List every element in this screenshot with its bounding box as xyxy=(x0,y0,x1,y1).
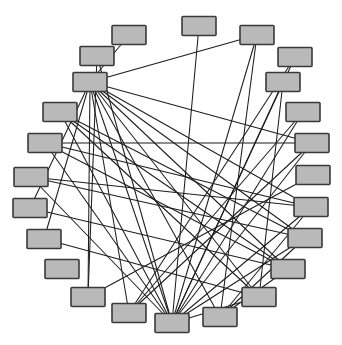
graph-node-box[interactable] xyxy=(296,166,330,185)
graph-node-box[interactable] xyxy=(112,26,146,45)
graph-edge xyxy=(178,122,297,314)
graph-edge xyxy=(97,92,251,288)
graph-node[interactable] xyxy=(71,288,105,307)
graph-node[interactable] xyxy=(295,134,329,153)
nodes-layer xyxy=(13,17,330,333)
graph-edge xyxy=(52,153,166,314)
graph-edge xyxy=(260,92,282,288)
graph-node-box[interactable] xyxy=(13,199,47,218)
graph-node-box[interactable] xyxy=(286,103,320,122)
graph-node[interactable] xyxy=(296,166,330,185)
graph-node[interactable] xyxy=(13,199,47,218)
graph-node-box[interactable] xyxy=(112,304,146,323)
graph-node[interactable] xyxy=(242,288,276,307)
graph-node-box[interactable] xyxy=(294,198,328,217)
graph-node[interactable] xyxy=(73,73,107,92)
figure-caption xyxy=(0,340,342,345)
graph-node-box[interactable] xyxy=(242,288,276,307)
graph-node-box[interactable] xyxy=(203,308,237,327)
graph-node-box[interactable] xyxy=(73,73,107,92)
graph-node[interactable] xyxy=(43,103,77,122)
graph-canvas xyxy=(0,0,342,345)
graph-node-box[interactable] xyxy=(71,288,105,307)
graph-edge xyxy=(107,87,295,139)
graph-node-box[interactable] xyxy=(27,230,61,249)
graph-node[interactable] xyxy=(27,230,61,249)
graph-node-box[interactable] xyxy=(43,103,77,122)
graph-node-box[interactable] xyxy=(288,229,322,248)
graph-figure xyxy=(0,0,342,345)
graph-node[interactable] xyxy=(266,73,300,92)
graph-node-box[interactable] xyxy=(28,134,62,153)
graph-node-box[interactable] xyxy=(295,134,329,153)
graph-node[interactable] xyxy=(240,26,274,45)
graph-node[interactable] xyxy=(288,229,322,248)
graph-node[interactable] xyxy=(294,198,328,217)
graph-node[interactable] xyxy=(14,168,48,187)
graph-node-box[interactable] xyxy=(278,48,312,67)
graph-node-box[interactable] xyxy=(155,314,189,333)
graph-node[interactable] xyxy=(203,308,237,327)
graph-node[interactable] xyxy=(286,103,320,122)
graph-node-box[interactable] xyxy=(271,260,305,279)
graph-edge xyxy=(100,92,278,260)
graph-node-box[interactable] xyxy=(182,17,216,36)
graph-node-box[interactable] xyxy=(266,73,300,92)
graph-node[interactable] xyxy=(182,17,216,36)
graph-edge xyxy=(135,67,289,304)
graph-edge xyxy=(70,122,249,288)
graph-edge xyxy=(48,179,294,205)
graph-node[interactable] xyxy=(80,47,114,66)
graph-node-box[interactable] xyxy=(80,47,114,66)
graph-node-box[interactable] xyxy=(14,168,48,187)
graph-edge xyxy=(107,40,240,77)
graph-node-box[interactable] xyxy=(45,260,79,279)
graph-node[interactable] xyxy=(278,48,312,67)
graph-node-box[interactable] xyxy=(240,26,274,45)
graph-node[interactable] xyxy=(45,260,79,279)
graph-node[interactable] xyxy=(112,304,146,323)
graph-node[interactable] xyxy=(28,134,62,153)
graph-edge xyxy=(175,45,254,314)
graph-node[interactable] xyxy=(112,26,146,45)
graph-node[interactable] xyxy=(271,260,305,279)
graph-node[interactable] xyxy=(155,314,189,333)
